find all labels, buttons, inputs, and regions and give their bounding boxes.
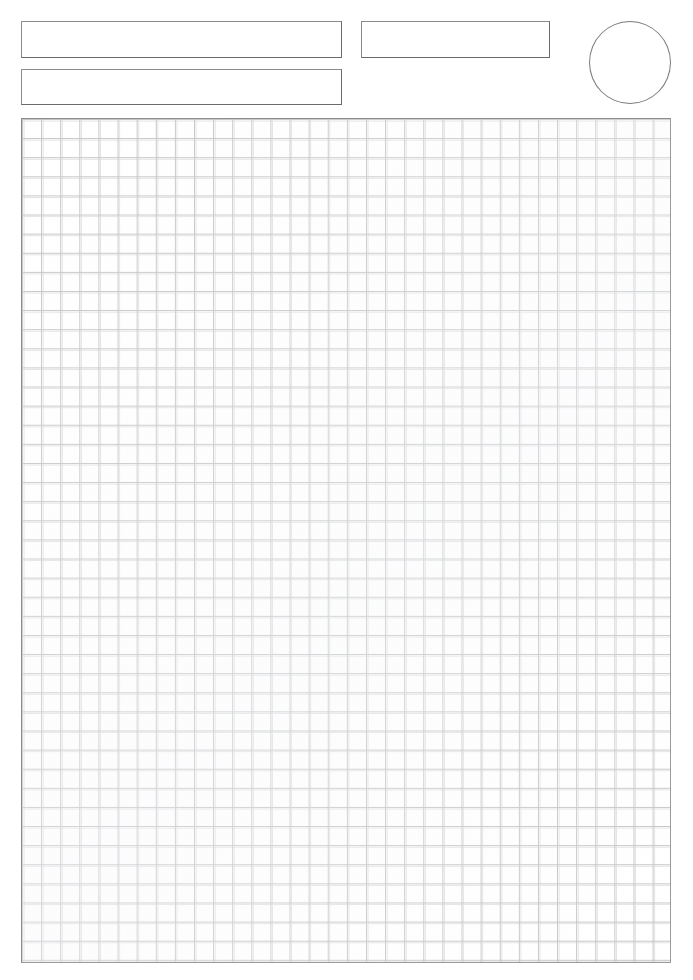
graph-paper-grid[interactable] — [21, 118, 671, 963]
name-secondary-field[interactable] — [21, 69, 342, 105]
worksheet-page — [0, 0, 693, 980]
date-field-value — [362, 22, 549, 30]
graph-paper-grid-content — [22, 119, 670, 962]
score-bubble-value — [590, 22, 670, 103]
name-primary-field-value — [22, 22, 341, 30]
date-field[interactable] — [361, 21, 550, 58]
name-secondary-field-value — [22, 70, 341, 78]
name-primary-field[interactable] — [21, 21, 342, 58]
score-bubble[interactable] — [589, 21, 671, 104]
